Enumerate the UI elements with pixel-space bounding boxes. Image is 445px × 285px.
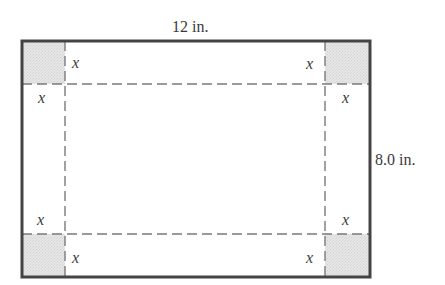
corner-square-bottom-right bbox=[325, 234, 370, 277]
x-label-bottom-left-right: x bbox=[72, 250, 79, 266]
width-label: 12 in. bbox=[172, 19, 208, 35]
x-label-top-right-below: x bbox=[342, 90, 349, 106]
diagram-canvas bbox=[0, 0, 445, 285]
x-label-bottom-right-left: x bbox=[306, 250, 313, 266]
box-net-diagram: 12 in. 8.0 in. x x x x x x x x bbox=[0, 0, 445, 285]
x-label-top-right-left: x bbox=[306, 56, 313, 72]
corner-square-top-left bbox=[22, 41, 65, 84]
height-label: 8.0 in. bbox=[375, 152, 415, 168]
x-label-top-left-right: x bbox=[72, 55, 79, 71]
x-label-bottom-left-above: x bbox=[37, 212, 44, 228]
x-label-bottom-right-above: x bbox=[342, 212, 349, 228]
x-label-top-left-below: x bbox=[38, 90, 45, 106]
corner-square-top-right bbox=[325, 41, 370, 84]
sheet-outline bbox=[22, 41, 370, 277]
corner-square-bottom-left bbox=[22, 234, 65, 277]
